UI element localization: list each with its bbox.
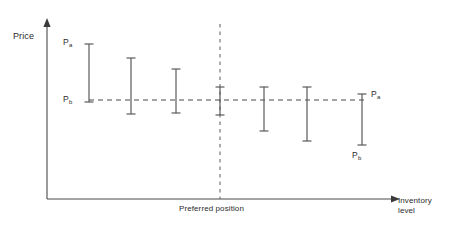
bid-price-subscript-right: b <box>358 155 361 161</box>
quote-interval-bar-1 <box>85 44 94 102</box>
y-axis-arrow-icon <box>43 18 50 27</box>
quote-interval-bar-5 <box>260 87 269 131</box>
x-axis-label-line2: level <box>398 206 415 217</box>
bid-price-letter: P <box>63 94 69 104</box>
ask-price-subscript-right: a <box>377 94 380 100</box>
y-axis-label: Price <box>13 31 34 41</box>
bid-price-subscript: b <box>69 99 72 105</box>
ask-price-letter-right: P <box>371 89 377 99</box>
ask-price-letter: P <box>63 37 69 47</box>
bid-price-label-right: Pb <box>352 150 361 161</box>
quote-interval-bar-6 <box>303 87 312 141</box>
quote-interval-bar-7 <box>358 94 367 145</box>
quote-interval-bar-4 <box>216 87 225 115</box>
x-axis-label-line1: Inventory <box>398 196 432 207</box>
ask-price-label-left: Pa <box>63 37 72 48</box>
quote-interval-bar-2 <box>127 58 136 114</box>
ask-price-subscript: a <box>69 42 72 48</box>
chart-figure: Price Pa Pb Pa Pb Preferred position Inv… <box>0 0 454 243</box>
preferred-position-label: Preferred position <box>179 204 244 214</box>
quote-interval-bar-3 <box>172 69 181 113</box>
bid-price-label-left: Pb <box>63 94 72 105</box>
ask-price-label-right: Pa <box>371 89 380 100</box>
bid-price-letter-right: P <box>352 150 358 160</box>
